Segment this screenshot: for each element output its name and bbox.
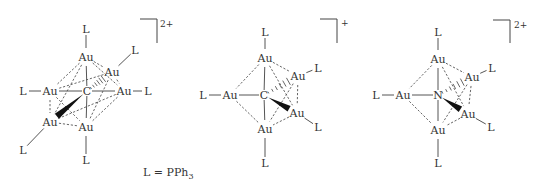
ligand-label: L [144,85,152,98]
aurophilic-bond [273,62,290,71]
bracket [140,19,157,43]
single-bond [264,100,265,120]
ligand-label: L [372,89,380,102]
gold-atom: Au [103,66,119,79]
gold-atom: Au [429,53,445,66]
aurophilic-bond [57,63,80,85]
charges-layer: 2++2+ [140,18,527,43]
aurophilic-bond [409,65,431,88]
ligand-label: L [199,89,207,102]
single-bond [264,67,265,90]
gold-atom: Au [256,52,272,65]
wedge-bond [442,98,462,112]
gold-atom: Au [289,70,305,83]
wedge-bond [55,94,83,118]
aurophilic-bond [90,80,108,119]
ligand-label: L [19,144,27,157]
aurophilic-bond [59,75,104,89]
diagram-canvas: AuAuAuAuAuAuLLLLLLCAuAuAuAuAuLLLLLCAuAuA… [0,0,545,188]
ligand-label: L [261,157,269,170]
ligand-label: L [131,44,139,57]
ligand-label: L [488,62,496,75]
gold-atom: Au [394,89,410,102]
gold-atom: Au [41,116,57,129]
single-bond [480,70,486,73]
gold-cluster-structures: AuAuAuAuAuAuLLLLLLCAuAuAuAuAuLLLLLCAuAuA… [0,0,545,188]
legend-text: L = PPh [143,166,188,179]
gold-atom: Au [288,107,304,120]
central-atom: C [260,89,268,102]
bracket [493,20,510,43]
aurophilic-bond [117,80,119,84]
aurophilic-bond [59,123,77,126]
gold-atom: Au [463,71,479,84]
aurophilic-bond [94,61,104,67]
ligand-label: L [487,121,495,134]
aurophilic-bond [297,85,298,104]
aurophilic-bond [409,101,431,123]
gold-atom: Au [459,108,475,121]
bracket [320,19,337,43]
single-bond [119,54,131,66]
ligand-label: L [434,26,442,39]
gold-atom: Au [77,51,93,64]
atoms-layer: AuAuAuAuAuAuLLLLLLCAuAuAuAuAuLLLLLCAuAuA… [19,23,496,170]
aurophilic-bond [469,86,471,105]
ligand-label: L [314,62,322,75]
ligand-legend: L = PPh3 [143,166,194,181]
single-bond [476,118,486,124]
ligand-label: L [434,157,442,170]
hashed-bond [90,75,105,88]
single-bond [27,128,44,145]
aurophilic-bond [273,117,289,125]
charge-bracket-au5n: 2+ [493,20,527,43]
aurophilic-bond [236,101,258,122]
wedge-bond [268,97,290,111]
atoms-au5c: AuAuAuAuAuLLLLLC [199,26,322,170]
gold-atom: Au [115,85,131,98]
charge-bracket-au5c: + [320,18,349,43]
central-atom: N [433,89,443,102]
hashed-bond [268,78,290,94]
gold-atom: Au [41,85,57,98]
central-atom: C [83,85,91,98]
ligand-label: L [261,26,269,39]
charge-bracket-au6c: 2+ [140,19,173,43]
aurophilic-bond [446,63,464,73]
single-bond [306,70,312,72]
ligand-label: L [82,23,90,36]
single-bond [304,118,313,124]
charge-label: + [341,18,349,28]
gold-atom: Au [221,89,237,102]
single-bond [86,66,87,86]
single-bond [86,96,87,118]
legend-subscript: 3 [188,172,193,181]
ligand-label: L [82,154,90,167]
gold-atom: Au [77,121,93,134]
charge-label: 2+ [514,20,527,30]
aurophilic-bond [93,97,118,121]
ligand-label: L [314,121,322,134]
charge-label: 2+ [160,19,173,29]
gold-atom: Au [256,123,272,136]
gold-atom: Au [429,124,445,137]
ligand-label: L [19,85,27,98]
aurophilic-bond [236,65,259,89]
atoms-au5n: AuAuAuAuAuLLLLLN [372,26,496,170]
aurophilic-bond [446,118,460,126]
